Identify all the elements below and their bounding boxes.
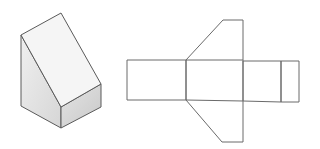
net-bottom-side-trapezoid: [186, 100, 243, 142]
net-back-rect: [127, 60, 186, 100]
net-front-rect: [281, 61, 299, 102]
net-slope-rect: [186, 60, 243, 101]
net-top-side-trapezoid: [186, 20, 243, 60]
wedge-prism-3d: [21, 13, 101, 128]
net-bottom-rect: [243, 61, 281, 102]
wedge-prism-net: [127, 20, 299, 142]
figure-canvas: [0, 0, 320, 149]
